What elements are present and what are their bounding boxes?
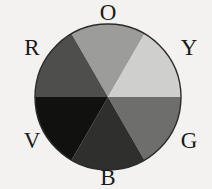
wheel-label-green: G [176, 129, 202, 152]
wheel-label-orange: O [95, 1, 121, 24]
wheel-label-blue: B [95, 166, 121, 189]
color-wheel-figure: O R Y V G B [0, 0, 212, 189]
wheel-label-violet: V [19, 129, 45, 152]
wheel-label-yellow: Y [176, 36, 202, 59]
wheel-sectors [27, 24, 190, 170]
wheel-label-red: R [19, 36, 45, 59]
color-wheel-diagram [0, 0, 212, 189]
